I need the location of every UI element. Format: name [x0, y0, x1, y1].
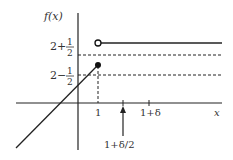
x-tick-label-1-delta: 1+δ: [140, 107, 161, 118]
y-label-upper-whole: 2+: [50, 40, 66, 53]
y-label-upper-den: 2: [67, 48, 73, 58]
y-label-upper-num: 1: [67, 37, 73, 47]
y-label-lower-den: 2: [67, 77, 73, 87]
arrow-head-icon: [120, 106, 126, 113]
closed-dot: [95, 62, 101, 68]
x-tick-label-1: 1: [95, 107, 101, 118]
function-graph: f(x) x 2+ 1 2 2− 1 2 1 1+δ 1+δ/2: [0, 0, 233, 160]
y-axis-label: f(x): [43, 10, 63, 23]
open-dot: [95, 40, 101, 46]
x-axis-label: x: [214, 107, 220, 118]
y-label-lower-num: 1: [67, 66, 73, 76]
x-tick-label-1-delta-half: 1+δ/2: [104, 139, 135, 150]
y-label-lower-whole: 2−: [50, 69, 66, 82]
